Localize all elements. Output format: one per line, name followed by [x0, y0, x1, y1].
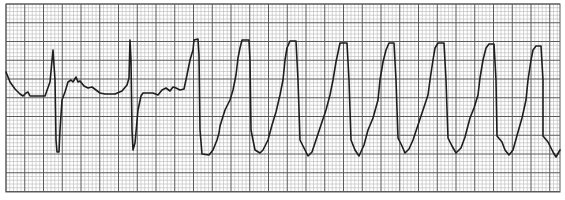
ecg-rhythm-strip: [0, 0, 565, 200]
